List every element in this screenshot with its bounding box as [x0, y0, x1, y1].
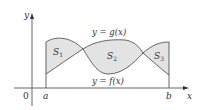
bound-label-b: b: [166, 91, 172, 101]
origin-label: 0: [23, 91, 29, 101]
bound-label-a: a: [43, 91, 48, 101]
y-axis-label: y: [23, 10, 30, 20]
region-s1: [46, 38, 83, 74]
x-axis-label: x: [187, 91, 192, 101]
curve-g-label: y = g(x): [91, 27, 126, 37]
y-axis-arrow-icon: [30, 13, 34, 19]
x-axis-arrow-icon: [183, 86, 189, 90]
area-between-curves-diagram: y x 0 a b y = g(x) y = f(x) S1 S2 S3: [0, 0, 200, 110]
curve-f-label: y = f(x): [91, 76, 124, 86]
